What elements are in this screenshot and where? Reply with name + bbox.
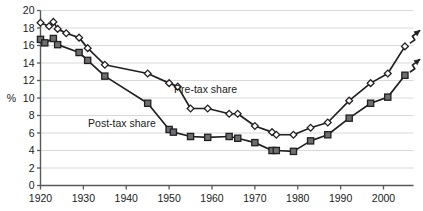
x-tick-label: 1920 (29, 192, 53, 204)
x-tick-label: 1970 (243, 192, 267, 204)
data-point-marker (402, 72, 408, 78)
line-chart: 02468101214161820 1920193019401950196019… (0, 0, 423, 211)
data-point-marker (235, 135, 241, 141)
data-point-marker (76, 49, 82, 55)
data-point-marker (204, 105, 211, 112)
data-point-marker (368, 100, 374, 106)
data-point-marker (50, 35, 56, 41)
x-tick-label: 1990 (329, 192, 353, 204)
data-point-marker (325, 132, 331, 138)
data-point-marker (226, 110, 233, 117)
y-tick-label: 8 (29, 109, 35, 121)
data-point-marker (145, 100, 151, 106)
data-point-marker (290, 148, 296, 154)
pre-tax-share-label: Pre-tax share (174, 83, 237, 95)
data-point-marker (226, 133, 232, 139)
data-point-marker (252, 140, 258, 146)
x-tick-label: 1980 (286, 192, 310, 204)
data-point-marker (385, 94, 391, 100)
y-axis-tick-labels: 02468101214161820 (23, 4, 35, 191)
data-point-marker (290, 131, 297, 138)
y-tick-label: 12 (23, 74, 35, 86)
data-point-marker (346, 115, 352, 121)
y-tick-label: 14 (23, 57, 35, 69)
data-point-marker (85, 57, 91, 63)
data-point-marker (273, 147, 279, 153)
x-tick-label: 2000 (372, 192, 396, 204)
y-tick-label: 2 (29, 162, 35, 174)
data-point-marker (102, 73, 108, 79)
data-point-marker (144, 70, 151, 77)
data-point-marker (307, 124, 314, 131)
x-tick-label: 1930 (72, 192, 96, 204)
y-tick-label: 6 (29, 127, 35, 139)
x-tick-label: 1960 (200, 192, 224, 204)
y-tick-label: 4 (29, 144, 35, 156)
x-axis-tick-labels: 192019301940195019601970198019902000 (29, 192, 396, 204)
data-point-marker (308, 138, 314, 144)
data-point-marker (55, 42, 61, 48)
y-axis-title: % (7, 92, 16, 104)
data-point-marker (63, 30, 70, 37)
post-tax-share-label: Post-tax share (88, 117, 156, 129)
data-point-marker (205, 134, 211, 140)
series-end-arrows (410, 31, 419, 72)
data-point-marker (37, 19, 44, 26)
x-tick-label: 1950 (157, 192, 181, 204)
y-tick-label: 20 (23, 4, 35, 16)
x-tick-label: 1940 (115, 192, 139, 204)
y-tick-label: 10 (23, 92, 35, 104)
y-tick-label: 0 (29, 179, 35, 191)
y-tick-label: 18 (23, 22, 35, 34)
data-point-marker (42, 40, 48, 46)
data-point-marker (170, 129, 176, 135)
chart-container: 02468101214161820 1920193019401950196019… (0, 0, 423, 211)
data-point-marker (187, 133, 193, 139)
y-tick-label: 16 (23, 39, 35, 51)
